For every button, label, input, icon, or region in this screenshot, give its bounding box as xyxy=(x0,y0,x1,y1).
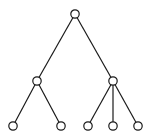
edge-b-b3 xyxy=(113,81,138,126)
node-b xyxy=(109,77,117,85)
tree-edges xyxy=(13,14,138,126)
node-a xyxy=(33,77,41,85)
node-b1 xyxy=(84,122,92,130)
tree-diagram xyxy=(0,0,150,138)
edge-root-a xyxy=(37,14,75,81)
edge-root-b xyxy=(75,14,113,81)
edge-a-a1 xyxy=(13,81,37,126)
node-b3 xyxy=(134,122,142,130)
node-a1 xyxy=(9,122,17,130)
node-b2 xyxy=(109,122,117,130)
edge-b-b1 xyxy=(88,81,113,126)
edge-a-a2 xyxy=(37,81,61,126)
node-a2 xyxy=(57,122,65,130)
tree-nodes xyxy=(9,10,142,130)
node-root xyxy=(71,10,79,18)
